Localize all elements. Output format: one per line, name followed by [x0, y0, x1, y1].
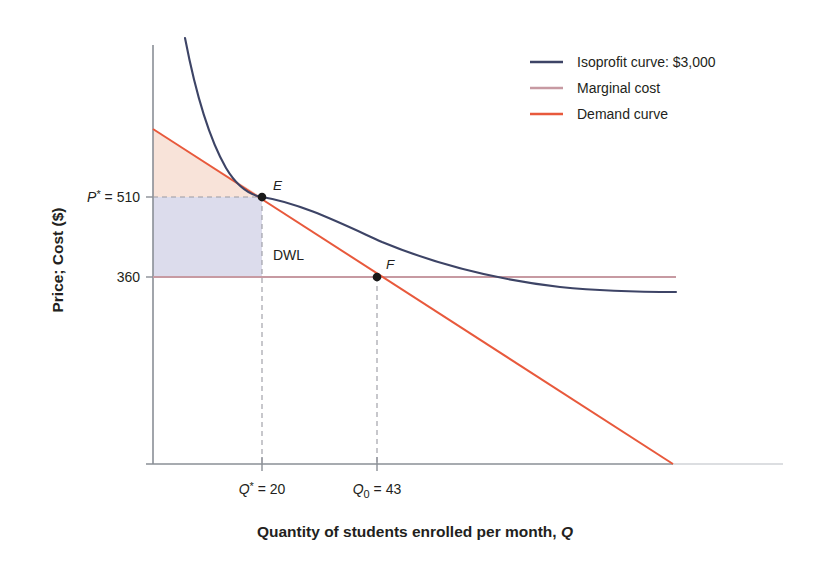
x-axis-title: Quantity of students enrolled per month,…: [257, 523, 573, 540]
point-e-marker: [258, 193, 267, 202]
x-tick-label-qstar: Q* = 20: [239, 480, 286, 497]
dwl-label: DWL: [273, 247, 304, 263]
legend-label-marginal-cost: Marginal cost: [577, 80, 660, 96]
profit-rectangle-region: [153, 197, 262, 277]
legend-label-demand: Demand curve: [577, 106, 668, 122]
x-tick-label-q0: Q0 = 43: [353, 481, 402, 500]
legend-item-demand: Demand curve: [530, 106, 668, 122]
y-axis-title: Price; Cost ($): [49, 207, 66, 312]
point-f-marker: [373, 273, 382, 282]
legend-item-marginal-cost: Marginal cost: [530, 80, 660, 96]
point-e-label: E: [273, 178, 283, 193]
economics-chart-figure: E F DWL P* = 510 360 Q* = 20 Q0 = 43 Pri…: [0, 0, 813, 563]
y-tick-label-360: 360: [117, 269, 141, 285]
chart-svg: E F DWL P* = 510 360 Q* = 20 Q0 = 43 Pri…: [0, 0, 813, 563]
demand-curve: [153, 129, 673, 464]
legend-label-isoprofit: Isoprofit curve: $3,000: [577, 54, 716, 70]
point-f-label: F: [386, 257, 395, 272]
y-tick-label-pstar: P* = 510: [87, 188, 140, 205]
legend-item-isoprofit: Isoprofit curve: $3,000: [530, 54, 716, 70]
legend: Isoprofit curve: $3,000 Marginal cost De…: [530, 54, 716, 122]
